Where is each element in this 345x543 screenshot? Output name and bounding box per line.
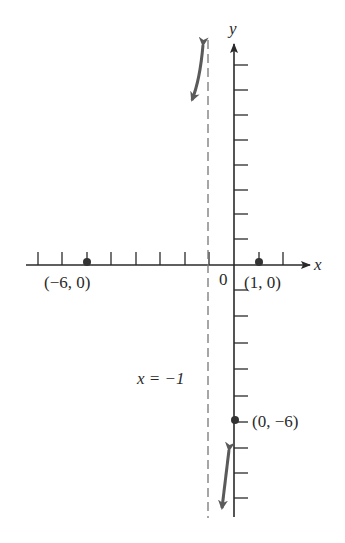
point-neg6-0 (83, 258, 91, 266)
coordinate-graph (0, 0, 345, 543)
upper-branch-arrow-icon (192, 45, 203, 100)
point-label-1-0: (1, 0) (244, 274, 281, 291)
point-label-0-neg6: (0, −6) (252, 413, 298, 430)
lower-branch-arrow-icon (222, 450, 229, 508)
x-axis (26, 252, 310, 265)
point-label-neg6-0: (−6, 0) (44, 274, 90, 291)
point-1-0 (255, 258, 263, 266)
asymptote-label: x = −1 (137, 370, 185, 387)
y-axis-label: y (229, 20, 237, 37)
point-0-neg6 (231, 416, 239, 424)
x-axis-ticks (38, 252, 283, 265)
x-axis-label: x (314, 256, 322, 273)
origin-label: 0 (219, 271, 228, 288)
